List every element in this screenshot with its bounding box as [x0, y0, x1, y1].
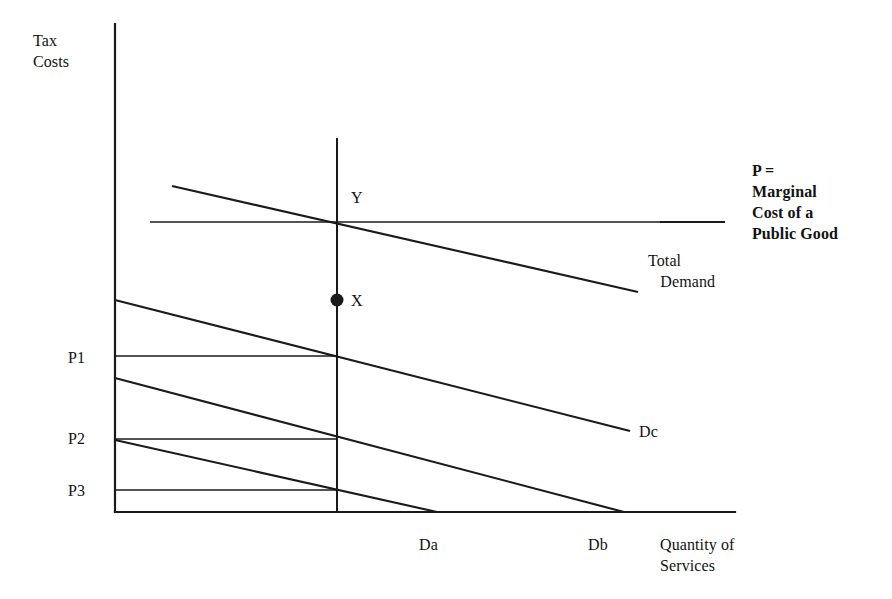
plot-canvas — [0, 0, 892, 599]
point-label-x: X — [351, 290, 363, 311]
legend-marginal-cost-label: P = Marginal Cost of a Public Good — [752, 160, 838, 244]
y-tick-label-p1: P1 — [68, 347, 85, 368]
x-tick-label-db: Db — [588, 534, 608, 555]
curve-total-demand — [172, 186, 638, 292]
x-axis-title: Quantity of Services — [660, 534, 734, 576]
curve-db — [115, 378, 624, 512]
point-label-y: Y — [351, 187, 363, 208]
curve-label-dc: Dc — [639, 421, 658, 442]
y-tick-label-p3: P3 — [68, 480, 85, 501]
x-tick-label-da: Da — [419, 534, 438, 555]
point-x-marker — [331, 294, 344, 307]
curve-label-total-demand: Total Demand — [648, 250, 715, 292]
economics-diagram: Tax Costs Quantity of Services P = Margi… — [0, 0, 892, 599]
curve-dc — [115, 300, 630, 431]
y-axis-title: Tax Costs — [33, 30, 69, 72]
y-tick-label-p2: P2 — [68, 428, 85, 449]
